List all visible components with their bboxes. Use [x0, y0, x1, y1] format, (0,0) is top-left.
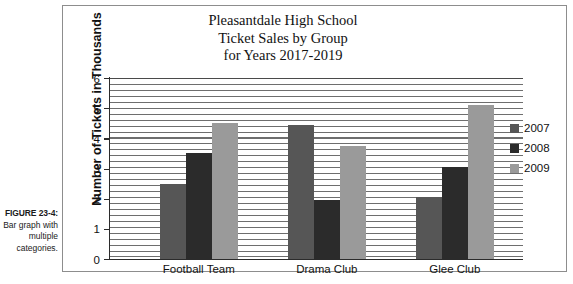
legend-item: 2009: [510, 159, 566, 177]
bar: [468, 105, 494, 259]
bar: [442, 167, 468, 259]
legend-label: 2008: [524, 142, 550, 154]
legend-label: 2009: [524, 162, 550, 174]
y-axis-tick-label: 4: [94, 133, 100, 145]
legend-item: 2007: [510, 119, 566, 137]
plot-area: [110, 78, 523, 259]
figure-number-label: FIGURE 23-4:: [0, 208, 58, 220]
x-axis-category-label: Football Team: [163, 263, 235, 275]
y-axis-tick-label: 3: [94, 163, 100, 175]
x-axis-category-label: Glee Club: [429, 263, 480, 275]
y-axis-tick-label: 5: [94, 103, 100, 115]
y-axis-tick: 3: [104, 169, 110, 170]
figure-frame: Pleasantdale High School Ticket Sales by…: [62, 5, 567, 272]
legend-swatch-icon: [510, 124, 519, 133]
figure-description: Bar graph with multiple categories.: [0, 220, 58, 255]
bar: [186, 153, 212, 259]
bar: [160, 184, 186, 259]
y-axis-tick: 6: [104, 78, 110, 79]
y-axis-tick: 4: [104, 138, 110, 139]
chart-title: Pleasantdale High School Ticket Sales by…: [63, 12, 503, 65]
legend-swatch-icon: [510, 144, 519, 153]
y-axis-tick: 5: [104, 108, 110, 109]
legend-swatch-icon: [510, 164, 519, 173]
bar: [314, 200, 340, 259]
bar: [288, 125, 314, 259]
y-axis-tick-label: 1: [94, 223, 100, 235]
bar: [340, 146, 366, 259]
y-axis-tick: 1: [104, 229, 110, 230]
y-axis-tick-label: 6: [94, 73, 100, 85]
chart-legend: 200720082009: [510, 119, 566, 179]
figure-caption: FIGURE 23-4: Bar graph with multiple cat…: [0, 208, 58, 254]
plot-top-border: [110, 78, 523, 79]
chart-title-line-3: for Years 2017-2019: [63, 47, 503, 65]
legend-label: 2007: [524, 122, 550, 134]
chart-title-line-1: Pleasantdale High School: [63, 12, 503, 30]
chart-title-line-2: Ticket Sales by Group: [63, 30, 503, 48]
x-axis-category-label: Drama Club: [296, 263, 357, 275]
legend-item: 2008: [510, 139, 566, 157]
y-axis-tick: 2: [104, 199, 110, 200]
bar: [416, 197, 442, 259]
bar: [212, 123, 238, 259]
y-axis-tick: 0: [104, 259, 110, 260]
x-axis-line: [109, 259, 523, 260]
y-axis-tick-label: 2: [94, 193, 100, 205]
y-axis-tick-label: 0: [94, 254, 100, 266]
